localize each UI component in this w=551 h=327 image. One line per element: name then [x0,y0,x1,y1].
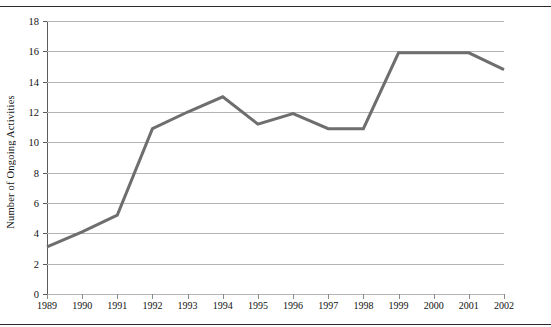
y-tick-label: 2 [0,258,39,269]
x-tick-mark [188,294,189,299]
x-tick-mark [504,294,505,299]
line-series [47,21,504,294]
x-tick-mark [434,294,435,299]
y-tick-mark [43,51,47,52]
x-tick-mark [82,294,83,299]
figure-root: Figure 3. Number of ongoing activities, … [0,0,551,327]
x-tick-mark [117,294,118,299]
x-tick-mark [328,294,329,299]
series-line [47,53,504,247]
y-tick-mark [43,82,47,83]
x-tick-mark [399,294,400,299]
y-tick-mark [43,173,47,174]
x-tick-mark [152,294,153,299]
y-tick-label: 10 [0,137,39,148]
plot-area [47,21,504,294]
x-tick-mark [223,294,224,299]
y-tick-mark [43,233,47,234]
x-tick-mark [258,294,259,299]
y-tick-mark [43,142,47,143]
y-tick-label: 14 [0,76,39,87]
grid-line [47,294,504,295]
y-tick-label: 18 [0,16,39,27]
top-divider [0,6,551,7]
y-tick-mark [43,264,47,265]
y-tick-label: 6 [0,198,39,209]
bottom-divider [0,324,551,325]
y-tick-label: 16 [0,46,39,57]
x-tick-mark [293,294,294,299]
y-tick-label: 12 [0,107,39,118]
x-tick-mark [363,294,364,299]
x-tick-mark [469,294,470,299]
x-tick-label: 2002 [482,300,526,311]
y-tick-mark [43,112,47,113]
y-tick-mark [43,21,47,22]
figure-caption-remnant-text: Figure 3. Number of ongoing activities, … [0,0,159,1]
y-tick-label: 4 [0,228,39,239]
y-tick-label: 0 [0,289,39,300]
y-tick-mark [43,203,47,204]
x-tick-mark [47,294,48,299]
y-tick-label: 8 [0,167,39,178]
